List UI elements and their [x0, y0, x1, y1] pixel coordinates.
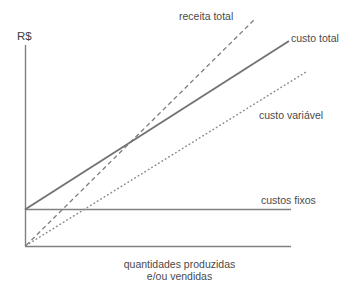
series-label-custo-total: custo total — [291, 32, 339, 44]
series-label-receita-total: receita total — [179, 10, 233, 22]
series-label-custos-fixos: custos fixos — [261, 194, 316, 206]
y-axis-title: R$ — [17, 30, 32, 42]
x-axis-title: quantidades produzidas e/ou vendidas — [0, 258, 359, 282]
total-revenue-line — [26, 18, 256, 246]
x-axis-title-line-2: e/ou vendidas — [0, 270, 359, 282]
chart-canvas — [0, 0, 359, 296]
total-cost-line — [25, 41, 289, 210]
series-label-custo-variavel: custo variável — [259, 109, 323, 121]
variable-cost-line — [26, 72, 306, 246]
break-even-chart: R$ receita total custo total custo variá… — [0, 0, 359, 296]
x-axis-title-line-1: quantidades produzidas — [124, 258, 236, 270]
